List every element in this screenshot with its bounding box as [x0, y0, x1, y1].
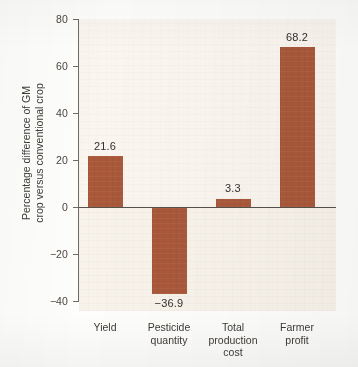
bar-value-yield: 21.6	[70, 141, 140, 152]
y-tick-mark-40	[73, 113, 79, 114]
y-axis-title-line-1: Percentage difference of GM	[20, 38, 33, 268]
figure-container: 80 60 40 20 0 −20 −40 Percentage differe…	[0, 0, 358, 367]
category-label-farmer-profit: Farmer profit	[257, 321, 337, 346]
category-label-farmer-profit-line-1: Farmer	[257, 321, 337, 334]
y-tick-label-neg40: −40	[8, 296, 68, 307]
y-tick-mark-20	[73, 160, 79, 161]
plot-negative-region	[79, 207, 336, 311]
y-tick-label-80: 80	[8, 14, 68, 25]
bar-total-production-cost	[216, 199, 251, 207]
y-tick-mark-0	[73, 207, 79, 208]
bar-value-total-production-cost: 3.3	[198, 183, 268, 194]
bar-value-pesticide-quantity: −36.9	[134, 298, 204, 309]
bar-value-farmer-profit: 68.2	[262, 32, 332, 43]
y-axis-title-line-2: crop versus conventional crop	[33, 38, 46, 268]
y-tick-mark-80	[73, 19, 79, 20]
y-tick-mark-neg40	[73, 301, 79, 302]
bar-yield	[88, 156, 123, 207]
bar-farmer-profit	[280, 47, 315, 207]
category-label-farmer-profit-line-2: profit	[257, 334, 337, 347]
category-label-total-production-cost-line-3: cost	[193, 346, 273, 359]
zero-baseline	[79, 207, 336, 208]
bar-pesticide-quantity	[152, 207, 187, 294]
y-tick-mark-60	[73, 66, 79, 67]
y-axis-title: Percentage difference of GM crop versus …	[20, 38, 46, 268]
plot-area	[79, 19, 336, 311]
y-tick-mark-neg20	[73, 254, 79, 255]
